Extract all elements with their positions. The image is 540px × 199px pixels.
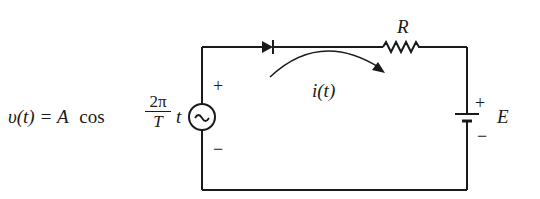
diode-icon [262,41,273,53]
source-plus-sign: + [213,76,223,97]
current-label: i(t) [312,80,335,102]
battery-label: E [497,106,509,128]
equation-tail: t [176,106,181,128]
equation-lhs: υ(t) = A [8,106,69,127]
battery-plus-sign: + [475,93,485,114]
source-equation: υ(t) = A cos [8,106,105,128]
circuit-diagram [0,0,540,199]
fraction-numerator: 2π [145,92,171,112]
source-minus-sign: − [213,139,223,160]
resistor-label: R [397,16,409,38]
battery-minus-sign: − [477,126,487,147]
current-arrow-arc [270,51,380,77]
equation-fraction: 2π T [145,92,171,132]
sine-wave-icon [195,115,209,121]
fraction-denominator: T [145,112,171,132]
resistor-icon [383,42,425,52]
equation-func: cos [79,106,104,127]
